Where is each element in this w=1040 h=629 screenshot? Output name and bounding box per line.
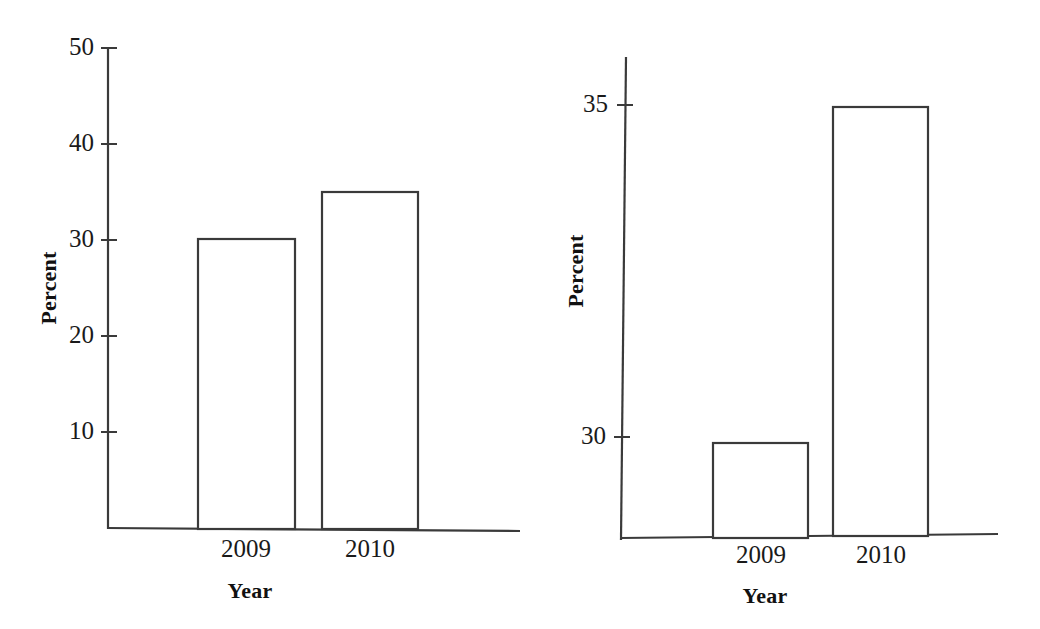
y-axis-title: Percent — [563, 211, 589, 331]
bar-2009 — [713, 443, 808, 538]
y-axis-title: Percent — [36, 228, 62, 348]
y-tick-label-30: 30 — [558, 422, 606, 450]
x-axis-line — [107, 528, 520, 531]
x-category-label-2010: 2010 — [310, 535, 430, 563]
y-tick-label-40: 40 — [48, 129, 94, 157]
figure-two-bar-charts: 50 40 30 20 10 2009 2010 Year Percent 35… — [0, 0, 1040, 629]
x-axis-title: Year — [705, 583, 825, 609]
y-tick-label-10: 10 — [48, 417, 94, 445]
bar-chart-left: 50 40 30 20 10 2009 2010 Year Percent — [0, 0, 520, 629]
x-category-label-2009: 2009 — [186, 535, 306, 563]
x-category-label-2009: 2009 — [701, 541, 821, 569]
bar-2010 — [322, 192, 418, 529]
x-category-label-2010: 2010 — [821, 541, 941, 569]
y-tick-label-35: 35 — [560, 90, 608, 118]
bar-2010 — [833, 107, 928, 536]
y-tick-label-50: 50 — [48, 33, 94, 61]
y-axis-line — [621, 57, 626, 540]
x-axis-title: Year — [190, 578, 310, 604]
bar-chart-right: 35 30 2009 2010 Year Percent — [520, 0, 1040, 629]
bar-2009 — [198, 239, 295, 529]
